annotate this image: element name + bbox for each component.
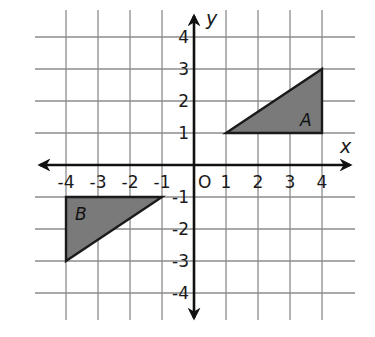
y-tick-label: 4 [178,27,189,47]
x-tick-label: 1 [221,172,232,192]
triangle-b-label: B [75,204,87,224]
origin-label: O [198,172,211,192]
y-tick-label: -2 [172,219,189,239]
y-tick-label: 1 [178,123,189,143]
coordinate-plane: AB -4-3-2-112344321-1-2-3-4 x y O [0,0,375,337]
y-tick-label: -4 [172,283,189,303]
y-tick-label: 2 [178,91,189,111]
x-tick-label: -2 [122,172,139,192]
x-tick-label: 3 [285,172,296,192]
y-tick-label: 3 [178,59,189,79]
x-tick-label: -1 [154,172,171,192]
x-axis-label: x [339,135,352,157]
y-tick-label: -3 [172,251,189,271]
y-tick-label: -1 [172,187,189,207]
x-tick-label: -3 [90,172,107,192]
x-tick-label: 4 [317,172,328,192]
y-axis-label: y [205,7,218,29]
x-tick-label: 2 [253,172,264,192]
triangle-a-label: A [299,110,312,130]
x-tick-label: -4 [58,172,75,192]
